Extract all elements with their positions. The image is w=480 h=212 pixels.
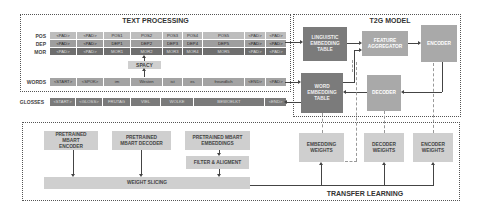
word-token: <START> <box>50 78 76 86</box>
pretrained-mbart-encoder: PRETRAINED MBART ENCODER <box>44 131 98 150</box>
encoder-weights: ENCODER WEIGHTS <box>413 133 453 162</box>
pos-token: POS2 <box>131 32 162 39</box>
mor-token: MOR4 <box>183 48 202 55</box>
gloss-token: <START> <box>50 98 75 106</box>
weight-slicing-box: WEIGHT SLICING <box>44 177 250 189</box>
mor-token: MOR1 <box>104 48 130 55</box>
pos-token: <PAD> <box>50 32 76 39</box>
linguistic-embedding-table: LINGUISTIC EMBEDDING TABLE <box>303 27 347 61</box>
pos-sequence: <PAD> <PAD> POS1 POS2 POS3 POS4 POS5 <PA… <box>50 32 286 39</box>
glosses-label: GLOSSES <box>18 99 44 105</box>
word-token: freundlich <box>203 78 244 86</box>
text-processing-title: TEXT PROCESSING <box>20 17 291 24</box>
gloss-token: WOLKE <box>161 98 193 106</box>
decoder-weights: DECODER WEIGHTS <box>364 133 404 162</box>
words-sequence: <START> <SPOK> im Westen ist es freundli… <box>50 78 286 86</box>
transfer-learning-title: TRANSFER LEARNING <box>325 190 405 197</box>
mor-token: MOR2 <box>131 48 162 55</box>
dep-token: DEP1 <box>104 40 130 47</box>
pos-token: <PAD> <box>266 32 286 39</box>
pos-token: POS1 <box>104 32 130 39</box>
feature-aggregator: FEATURE AGGREGATOR <box>362 31 408 56</box>
filter-alignment-box: FILTER & ALIGMENT <box>186 156 249 169</box>
dep-token: <PAD> <box>245 40 265 47</box>
glosses-sequence: <START> <GLOSS> FRUTAG VIEL WOLKE BEWOEL… <box>50 98 286 106</box>
word-token: <SPOK> <box>77 78 103 86</box>
pos-token: POS5 <box>203 32 244 39</box>
embedding-weights: EMBEDDING WEIGHTS <box>299 133 344 162</box>
dep-sequence: <PAD> <PAD> DEP1 DEP2 DEP3 DEP4 DEP5 <PA… <box>50 40 286 47</box>
word-token: <PAD> <box>266 78 286 86</box>
word-token: im <box>104 78 130 86</box>
pos-token: POS4 <box>183 32 202 39</box>
gloss-token: VIEL <box>131 98 160 106</box>
mor-token: <PAD> <box>77 48 103 55</box>
pretrained-mbart-decoder: PRETRAINED MBART DECODER <box>112 131 171 150</box>
word-embedding-table: WORD EMBEDDING TABLE <box>301 73 343 113</box>
gloss-token: <END> <box>265 98 286 106</box>
pos-token: <PAD> <box>77 32 103 39</box>
pos-token: <PAD> <box>245 32 265 39</box>
dep-token: DEP4 <box>183 40 202 47</box>
word-token: es <box>183 78 202 86</box>
word-token: ist <box>163 78 182 86</box>
dep-token: DEP5 <box>203 40 244 47</box>
mor-token: MOR3 <box>163 48 182 55</box>
mor-token: <PAD> <box>266 48 286 55</box>
pretrained-mbart-embeddings: PRETRAINED MBART EMBEDDINGS <box>185 131 250 150</box>
mor-label: MOR <box>20 49 46 55</box>
mor-token: <PAD> <box>50 48 76 55</box>
mor-sequence: <PAD> <PAD> MOR1 MOR2 MOR3 MOR4 MOR5 <PA… <box>50 48 286 55</box>
pos-token: POS3 <box>163 32 182 39</box>
gloss-token: BEWOELKT <box>194 98 264 106</box>
word-token: Westen <box>131 78 162 86</box>
dep-label: DEP <box>20 41 46 47</box>
dep-token: <PAD> <box>266 40 286 47</box>
gloss-token: <GLOSS> <box>76 98 102 106</box>
pos-label: POS <box>20 33 46 39</box>
dep-token: DEP2 <box>131 40 162 47</box>
dep-token: <PAD> <box>77 40 103 47</box>
decoder: DECODER <box>367 75 401 111</box>
mor-token: MOR5 <box>203 48 244 55</box>
encoder: ENCODER <box>421 25 457 62</box>
word-token: <END> <box>245 78 265 86</box>
words-label: WORDS <box>20 79 46 85</box>
gloss-token: FRUTAG <box>103 98 130 106</box>
dep-token: <PAD> <box>50 40 76 47</box>
t2g-model-title: T2G MODEL <box>355 17 425 24</box>
dep-token: DEP3 <box>163 40 182 47</box>
mor-token: <PAD> <box>245 48 265 55</box>
